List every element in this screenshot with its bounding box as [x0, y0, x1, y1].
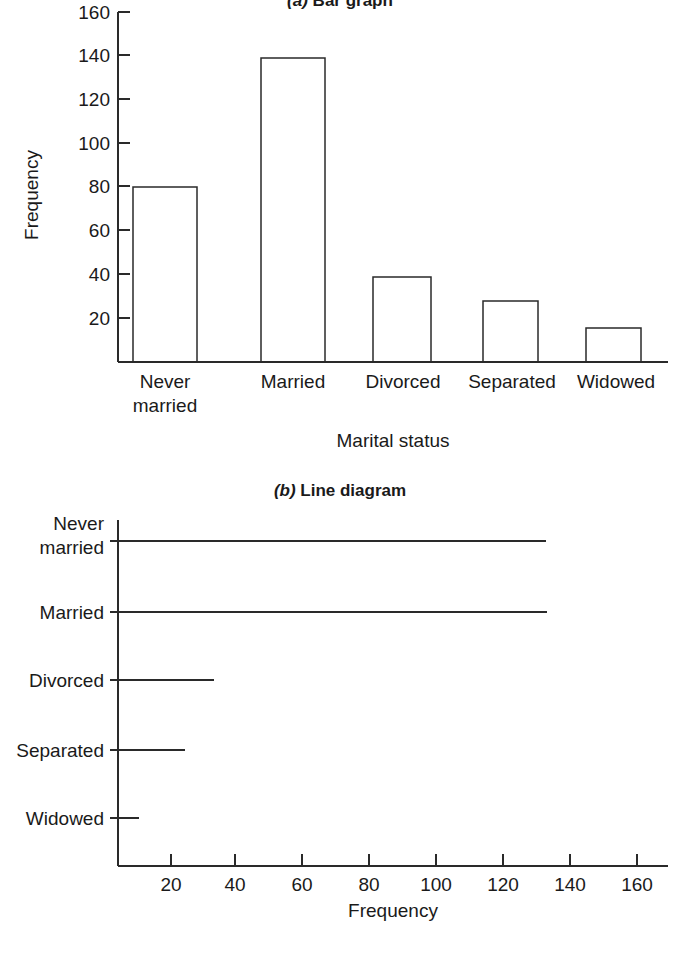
line-x-axis-title: Frequency — [348, 900, 438, 921]
bar-panel-title-letter: (a) — [287, 0, 308, 10]
bar-ytick-label-120: 120 — [78, 89, 110, 110]
statistics-figure: (a) Bar graph 160 140 120 100 80 60 40 2… — [0, 0, 681, 954]
bar-ytick-label-140: 140 — [78, 45, 110, 66]
bar-cat-label-never-married-2: married — [133, 395, 197, 416]
bar-divorced — [373, 277, 431, 362]
line-panel-title-letter: (b) — [274, 481, 296, 500]
line-cat-label-never-married-2: married — [40, 537, 104, 558]
bar-separated — [483, 301, 538, 362]
bar-cat-label-married: Married — [261, 371, 325, 392]
line-cat-label-widowed: Widowed — [26, 808, 104, 829]
bar-x-axis-title: Marital status — [337, 430, 450, 451]
bar-cat-label-divorced: Divorced — [366, 371, 441, 392]
line-xtick-label-120: 120 — [487, 874, 519, 895]
line-xtick-label-20: 20 — [160, 874, 181, 895]
line-xtick-label-140: 140 — [554, 874, 586, 895]
line-diagram-panel: (b) Line diagram Never married Married D… — [0, 474, 681, 944]
line-xtick-label-100: 100 — [420, 874, 452, 895]
line-panel-title-rest: Line diagram — [296, 481, 407, 500]
line-cat-label-divorced: Divorced — [29, 670, 104, 691]
bar-ytick-label-60: 60 — [89, 220, 110, 241]
line-xtick-label-160: 160 — [621, 874, 653, 895]
line-xtick-label-60: 60 — [291, 874, 312, 895]
bar-ytick-label-20: 20 — [89, 308, 110, 329]
line-xtick-label-40: 40 — [224, 874, 245, 895]
bar-y-axis-title: Frequency — [21, 150, 42, 240]
bar-cat-label-separated: Separated — [468, 371, 556, 392]
line-xtick-label-80: 80 — [358, 874, 379, 895]
bar-graph-panel: (a) Bar graph 160 140 120 100 80 60 40 2… — [0, 0, 681, 460]
bar-ytick-label-160: 160 — [78, 2, 110, 23]
bar-panel-title-rest: Bar graph — [308, 0, 393, 10]
bar-panel-title: (a) Bar graph — [287, 0, 393, 10]
bar-married — [261, 58, 325, 362]
bar-ytick-label-40: 40 — [89, 264, 110, 285]
line-cat-label-separated: Separated — [16, 740, 104, 761]
bar-ytick-label-80: 80 — [89, 176, 110, 197]
bar-widowed — [586, 328, 641, 362]
bar-never-married — [133, 187, 197, 362]
bar-cat-label-widowed: Widowed — [577, 371, 655, 392]
line-cat-label-married: Married — [40, 602, 104, 623]
bar-ytick-label-100: 100 — [78, 133, 110, 154]
bar-cat-label-never-married-1: Never — [140, 371, 191, 392]
line-panel-title: (b) Line diagram — [274, 481, 406, 500]
line-cat-label-never-married-1: Never — [53, 513, 104, 534]
